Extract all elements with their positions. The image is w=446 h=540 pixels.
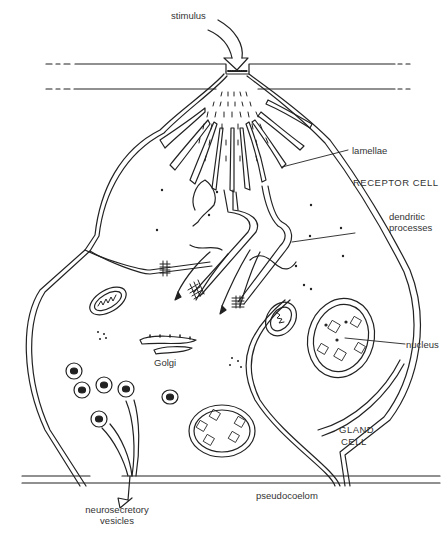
secretory-bulb (193, 180, 215, 226)
diagram-canvas: stimulus lamellae RECEPTOR CELL dendriti… (0, 0, 446, 540)
stimulus-arrow (208, 20, 248, 70)
label-cell: CELL (341, 436, 367, 447)
dendritic-leader-line (292, 233, 355, 242)
lamellae-fan (160, 92, 312, 192)
cell-diagram-art (0, 0, 446, 540)
basement-membrane (22, 476, 440, 483)
label-receptor-cell: RECEPTOR CELL (353, 177, 439, 188)
nucleus-leader-line (345, 338, 405, 344)
label-dendritic-2: processes (389, 222, 432, 233)
label-stimulus: stimulus (171, 10, 206, 21)
golgi-apparatus (140, 335, 196, 354)
dendritic-processes (160, 186, 296, 314)
neurosecretory-vesicles (66, 363, 178, 508)
label-lamellae: lamellae (352, 145, 387, 156)
lamellae-leader-line (282, 150, 348, 167)
label-neurosecretory: neurosecretory (84, 504, 150, 515)
lower-nucleus (189, 405, 255, 457)
cuticle-lines (46, 64, 410, 89)
label-dendritic-1: dendritic (389, 211, 425, 222)
label-golgi: Golgi (154, 357, 176, 368)
gland-nucleus (299, 291, 383, 385)
label-pseudocoelom: pseudocoelom (256, 490, 318, 501)
gland-cell-boundary (246, 300, 404, 486)
label-gland: GLAND (339, 424, 374, 435)
label-vesicles: vesicles (84, 515, 150, 526)
label-nucleus: nucleus (406, 339, 439, 350)
